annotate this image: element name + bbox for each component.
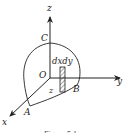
point-b-label: B [72, 84, 80, 94]
origin-label: O [39, 70, 47, 80]
point-c-label: C [41, 33, 48, 43]
figure-caption: Figure 5.1 [44, 130, 77, 133]
z-axis-label: z [46, 3, 52, 13]
height-label: z [48, 86, 54, 95]
point-a-label: A [23, 107, 31, 117]
y-axis-label: y [116, 76, 123, 86]
area-element-label: dxdy [52, 56, 73, 66]
surface-integral-diagram: z y x O A B C dxdy z Figure 5.1 [0, 0, 126, 133]
x-axis-label: x [2, 117, 7, 127]
surface-boundary-curve-bottom [30, 85, 77, 106]
area-element-column [60, 67, 65, 92]
